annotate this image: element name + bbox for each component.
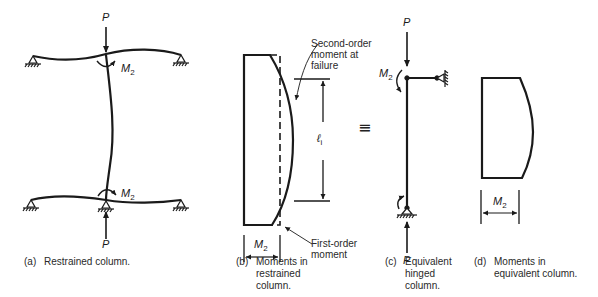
panel-b-moment-diagram [244,44,330,262]
pin-support-icon [98,201,114,212]
moment-subscript: 2 [263,244,267,253]
caption-tag: (c) [385,256,405,268]
label-line: First-order [311,238,357,249]
label-line: moment [311,249,357,260]
top-moment-arc [397,70,402,92]
structural-diagram [0,0,598,297]
width-label-b: M2 [254,238,268,253]
caption-text: Restrained column. [44,256,130,268]
moment-subscript: 2 [502,201,506,210]
second-order-label: Second-order moment at failure [311,38,372,71]
pin-support-icon [437,70,448,87]
panel-a-restrained-column [23,27,189,239]
caption-line: column. [405,280,440,291]
pin-support-icon [23,200,39,211]
label-line: Second-order [311,38,372,49]
caption-line: column. [256,280,291,291]
length-label: ℓi [317,132,322,147]
moment-label-top-a: M2 [121,62,135,77]
moment-subscript: 2 [130,193,134,202]
caption-line: Equivalent [405,256,452,267]
caption-text: Moments inrestrainedcolumn. [256,256,308,292]
caption-line: equivalent column. [494,268,577,279]
moment-symbol: M [121,187,130,199]
moment-label-c: M2 [379,67,393,82]
caption-line: Moments in [256,256,308,267]
caption-line: restrained [256,268,300,279]
moment-symbol: M [121,62,130,74]
caption-tag: (a) [24,256,44,268]
column [106,55,113,200]
load-label-bottom-a: P [102,238,109,250]
caption-c: (c)Equivalenthingedcolumn. [385,256,452,292]
first-order-moment-dashed [270,55,280,225]
first-order-label: First-order moment [311,238,357,260]
moment-symbol: M [254,238,263,250]
caption-d: (d)Moments inequivalent column. [474,256,577,280]
caption-b: (b)Moments inrestrainedcolumn. [236,256,308,292]
caption-text: Moments inequivalent column. [494,256,577,280]
panel-d-moment-diagram [481,78,533,224]
moment-symbol: M [493,195,502,207]
panel-c-equivalent-hinged-column [397,32,448,253]
moment-symbol: M [379,67,388,79]
caption-tag: (b) [236,256,256,268]
leader-first-order [285,227,312,244]
length-subscript: i [321,138,323,147]
caption-text: Equivalenthingedcolumn. [405,256,452,292]
label-line: failure [311,60,372,71]
width-label-d: M2 [493,195,507,210]
caption-tag: (d) [474,256,494,268]
moment-subscript: 2 [130,68,134,77]
pin-support-icon [397,208,417,218]
caption-line: Moments in [494,256,546,267]
equivalence-symbol: ≡ [358,118,371,137]
bottom-moment-arc [398,196,404,209]
caption-line: hinged [405,268,435,279]
label-line: moment at [311,49,372,60]
load-label-top-a: P [102,11,109,23]
pin-support-icon [173,55,189,66]
moment-subscript: 2 [388,73,392,82]
second-order-moment-shape [244,55,293,225]
load-label-top-c: P [403,16,410,28]
moment-label-bottom-a: M2 [121,187,135,202]
caption-a: (a)Restrained column. [24,256,130,268]
equivalent-moment-shape [482,78,533,178]
